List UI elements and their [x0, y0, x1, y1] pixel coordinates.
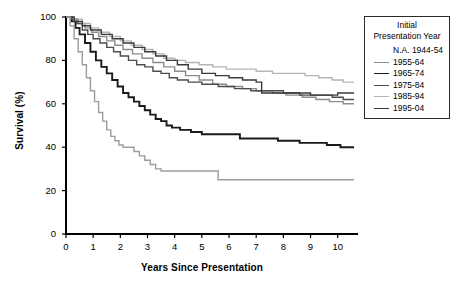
legend-entry-label: 1955-64: [393, 57, 424, 68]
legend-line-swatch: [374, 91, 389, 102]
legend-line-swatch: [374, 80, 389, 91]
legend-entry[interactable]: 1985-94: [368, 91, 446, 103]
x-tick-label: 0: [56, 241, 76, 252]
legend-title-line-1: Initial: [368, 20, 446, 31]
tick-marks: [62, 17, 338, 238]
y-tick-label: 20: [28, 185, 56, 196]
x-axis-title: Years Since Presentation: [0, 262, 404, 273]
legend-entry-label: 1965-74: [393, 68, 424, 79]
legend-entry-label: 1995-04: [393, 103, 424, 114]
legend-entries: N.A. 1944-541955-641965-741975-841985-94…: [368, 45, 446, 114]
x-tick-label: 2: [110, 241, 130, 252]
legend-entry[interactable]: 1995-04: [368, 103, 446, 115]
x-tick-label: 5: [192, 241, 212, 252]
x-tick-label: 10: [328, 241, 348, 252]
x-tick-label: 9: [301, 241, 321, 252]
legend-entry-label: 1985-94: [393, 91, 424, 102]
legend-entry[interactable]: 1975-84: [368, 80, 446, 92]
y-axis-title: Survival (%): [14, 66, 25, 176]
x-tick-label: 7: [246, 241, 266, 252]
survival-chart-figure: Survival (%) Years Since Presentation 10…: [0, 0, 466, 284]
legend-entry-label: N.A. 1944-54: [393, 45, 443, 56]
y-tick-label: 60: [28, 98, 56, 109]
legend-entry[interactable]: 1965-74: [368, 68, 446, 80]
survival-curve: [66, 17, 354, 99]
legend-entry[interactable]: 1955-64: [368, 57, 446, 69]
x-tick-label: 1: [83, 241, 103, 252]
legend: Initial Presentation Year N.A. 1944-5419…: [364, 16, 450, 119]
y-tick-label: 100: [28, 11, 56, 22]
x-tick-label: 6: [219, 241, 239, 252]
axis-lines: [65, 16, 358, 234]
x-tick-label: 8: [273, 241, 293, 252]
survival-curve: [66, 17, 354, 82]
legend-entry-label: 1975-84: [393, 80, 424, 91]
legend-line-swatch: [374, 57, 389, 68]
x-tick-label: 3: [138, 241, 158, 252]
y-tick-label: 0: [28, 228, 56, 239]
y-tick-label: 80: [28, 54, 56, 65]
legend-line-swatch: [374, 68, 389, 79]
y-tick-label: 40: [28, 141, 56, 152]
legend-line-swatch: [374, 103, 389, 114]
x-tick-label: 4: [165, 241, 185, 252]
legend-title: Initial Presentation Year: [368, 20, 446, 41]
legend-title-line-2: Presentation Year: [368, 31, 446, 42]
survival-curves: [66, 17, 354, 180]
legend-entry[interactable]: N.A. 1944-54: [368, 45, 446, 57]
survival-curve: [66, 17, 354, 95]
survival-curve: [66, 17, 354, 104]
